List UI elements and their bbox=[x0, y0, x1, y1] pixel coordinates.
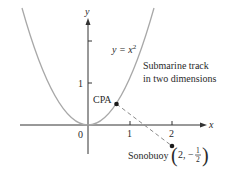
coord-paren-left: ( bbox=[171, 144, 178, 167]
x-tick-label-0: 0 bbox=[78, 129, 83, 140]
coord-frac-den: 2 bbox=[196, 155, 200, 164]
sonobuoy-label: Sonobuoy bbox=[128, 150, 169, 161]
curve-exponent: 2 bbox=[133, 43, 137, 51]
y-tick-label-1: 1 bbox=[78, 78, 83, 89]
cpa-label: CPA bbox=[93, 94, 112, 105]
x-axis-arrow-icon bbox=[200, 123, 207, 128]
coord-minus: − bbox=[188, 149, 194, 160]
coord-frac-num: 1 bbox=[196, 146, 200, 155]
cpa-point bbox=[114, 102, 119, 107]
y-axis-arrow-icon bbox=[86, 18, 91, 25]
x-tick-label-1: 1 bbox=[127, 128, 132, 139]
curve-equation: y = x2 bbox=[111, 43, 137, 55]
track-label-line2: in two dimensions bbox=[143, 73, 216, 84]
x-axis-label: x bbox=[208, 119, 214, 130]
x-tick-label-2: 2 bbox=[169, 128, 174, 139]
curve-equation-text: y = x bbox=[111, 44, 133, 55]
parabola-diagram: y x 0 1 2 1 y = x2 Submarine track in tw… bbox=[0, 0, 225, 173]
y-axis-label: y bbox=[84, 6, 90, 17]
coord-x: 2, bbox=[178, 149, 186, 160]
coord-paren-right: ) bbox=[202, 144, 209, 167]
track-label-line1: Submarine track bbox=[143, 60, 209, 71]
